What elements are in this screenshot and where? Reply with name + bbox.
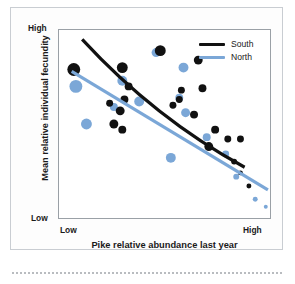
trend-line-north <box>72 71 268 189</box>
chart-legend: South North <box>199 38 253 64</box>
data-point-south <box>176 96 183 103</box>
page-rule <box>12 272 283 274</box>
x-tick <box>77 218 78 219</box>
y-tick <box>58 101 59 102</box>
y-tick <box>58 149 59 150</box>
data-point-north <box>179 63 189 73</box>
data-point-north <box>233 174 239 180</box>
legend-item-south: South <box>199 38 253 51</box>
data-point-south <box>199 84 207 92</box>
x-tick <box>95 218 96 219</box>
data-point-north <box>203 133 211 141</box>
legend-label-north: North <box>231 53 252 62</box>
data-point-north <box>264 205 268 209</box>
data-point-south <box>117 62 128 73</box>
data-point-north <box>81 119 92 130</box>
x-axis-high-label: High <box>243 225 262 235</box>
data-point-south <box>190 111 198 119</box>
y-axis-low-label: Low <box>31 213 48 223</box>
x-tick <box>112 218 113 219</box>
x-axis-low-label: Low <box>60 225 77 235</box>
data-point-south <box>109 120 118 129</box>
x-tick <box>183 218 184 219</box>
x-tick <box>148 218 149 219</box>
plot-area: South North <box>58 29 271 219</box>
data-point-north <box>166 153 176 163</box>
legend-item-north: North <box>199 51 253 64</box>
data-point-south <box>246 184 251 189</box>
y-axis-title: Mean relative individual fecundity <box>40 13 50 203</box>
data-point-south <box>116 106 125 115</box>
figure-card: Mean relative individual fecundity Pike … <box>10 7 283 250</box>
data-point-south <box>169 102 176 109</box>
data-point-south <box>237 136 244 143</box>
x-tick <box>237 218 238 219</box>
data-point-south <box>118 126 126 134</box>
y-tick <box>58 196 59 197</box>
y-tick <box>58 173 59 174</box>
y-tick <box>58 54 59 55</box>
x-axis-title: Pike relative abundance last year <box>58 240 271 250</box>
x-tick <box>201 218 202 219</box>
legend-label-south: South <box>231 40 253 49</box>
y-tick <box>58 78 59 79</box>
x-tick <box>254 218 255 219</box>
data-point-north <box>69 80 82 93</box>
legend-swatch-south <box>199 43 225 46</box>
data-point-south <box>178 87 185 94</box>
y-axis-high-label: High <box>28 23 47 33</box>
data-point-south <box>211 126 219 134</box>
data-point-south <box>155 45 166 56</box>
x-tick <box>219 218 220 219</box>
y-tick <box>58 125 59 126</box>
x-tick <box>166 218 167 219</box>
data-point-north <box>253 197 258 202</box>
x-tick <box>130 218 131 219</box>
data-point-north <box>181 108 190 117</box>
legend-swatch-north <box>199 56 225 59</box>
data-point-south <box>224 136 231 143</box>
data-point-south <box>106 100 113 107</box>
